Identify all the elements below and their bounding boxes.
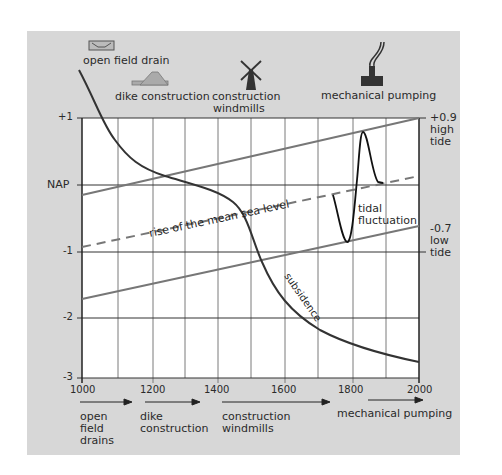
label-open-field-drain: open field drain xyxy=(83,55,169,67)
ytick-minus2: -2 xyxy=(63,311,73,322)
era-construction-windmills: constructionwindmills xyxy=(222,411,290,435)
high-tide-label-2: tide xyxy=(430,136,451,148)
chart-svg: rise of the mean sea level subsidence xyxy=(0,0,502,475)
era-arrows xyxy=(80,397,423,405)
ytick-nap: NAP xyxy=(47,178,69,191)
tidal-label-2: fluctuation xyxy=(358,215,417,227)
xtick-1600: 1600 xyxy=(271,384,296,395)
label-dike-construction: dike construction xyxy=(115,91,210,103)
era-dike-construction: dikeconstruction xyxy=(140,411,208,435)
xtick-1400: 1400 xyxy=(204,384,229,395)
drain-icon xyxy=(89,41,114,50)
xtick-1200: 1200 xyxy=(140,384,165,395)
low-tide-label-2: tide xyxy=(430,247,451,259)
xtick-1000: 1000 xyxy=(70,384,95,395)
era-mechanical-pumping: mechanical pumping xyxy=(337,408,452,420)
ytick-minus3: -3 xyxy=(63,371,73,382)
dike-icon xyxy=(132,72,168,85)
pump-icon xyxy=(361,42,384,86)
ytick-minus1: -1 xyxy=(63,245,73,256)
xtick-1800: 1800 xyxy=(338,384,363,395)
windmill-icon xyxy=(241,61,261,90)
xtick-2000: 2000 xyxy=(407,384,432,395)
label-construction-windmills-2: windmills xyxy=(213,103,265,115)
label-mechanical-pumping: mechanical pumping xyxy=(321,90,436,102)
ytick-plus1: +1 xyxy=(58,111,73,122)
era-open-field-drains: openfielddrains xyxy=(80,411,114,447)
